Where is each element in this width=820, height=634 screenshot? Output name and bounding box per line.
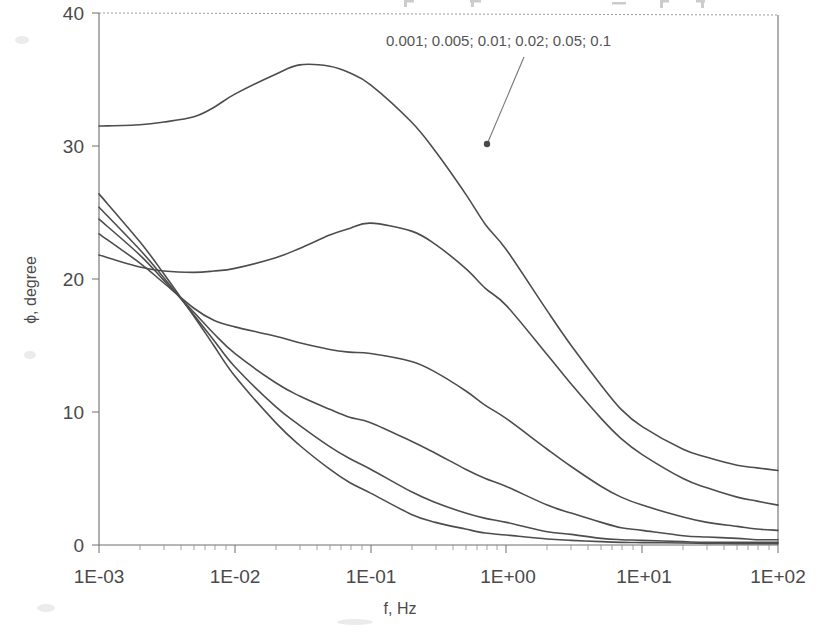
x-tick-label-1e+01: 1E+01: [616, 566, 671, 587]
y-axis-title: ϕ, degree: [22, 256, 39, 324]
x-tick-label-1e-02: 1E-02: [210, 566, 261, 587]
x-tick-label-1e+00: 1E+00: [480, 566, 535, 587]
y-tick-label-30: 30: [63, 136, 84, 157]
y-tick-label-40: 40: [63, 3, 84, 24]
y-tick-label-20: 20: [63, 269, 84, 290]
y-tick-label-10: 10: [63, 402, 84, 423]
x-tick-label-1e-03: 1E-03: [74, 566, 125, 587]
x-axis-title: f, Hz: [384, 600, 417, 617]
chart-background: [0, 0, 820, 634]
y-tick-label-0: 0: [73, 535, 84, 556]
x-tick-label-1e-01: 1E-01: [346, 566, 397, 587]
x-tick-label-1e+02: 1E+02: [750, 566, 805, 587]
series-values-annotation: 0.001; 0.005; 0.01; 0.02; 0.05; 0.1: [386, 32, 611, 49]
phase-angle-chart: 40 30 20 10 0 ϕ, degree: [0, 0, 820, 634]
